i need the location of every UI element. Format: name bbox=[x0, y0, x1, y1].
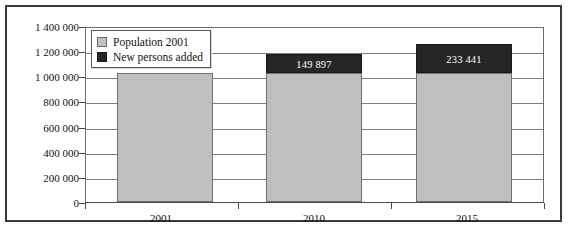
y-axis-tick-label: 800 000 bbox=[43, 97, 79, 108]
bar-2010[interactable]: 149 897 bbox=[266, 26, 362, 202]
legend-item-new-persons[interactable]: New persons added bbox=[97, 49, 203, 64]
x-axis-tick-mark bbox=[544, 203, 545, 209]
y-axis-tick-label: 400 000 bbox=[43, 147, 79, 158]
x-axis-label-2001: 2001 bbox=[150, 213, 172, 224]
y-axis-labels: 1 400 000 1 200 000 1 000 000 800 000 60… bbox=[7, 7, 79, 232]
x-axis-label-2015: 2015 bbox=[456, 213, 478, 224]
legend-label-population: Population 2001 bbox=[113, 36, 189, 48]
y-axis-tick-label: 1 000 000 bbox=[35, 72, 79, 83]
bar-label-2010: 149 897 bbox=[267, 58, 361, 69]
bar-label-2015: 233 441 bbox=[417, 53, 511, 64]
legend-swatch-population-icon bbox=[97, 37, 107, 47]
x-axis-tick-mark bbox=[85, 203, 86, 209]
legend-item-population[interactable]: Population 2001 bbox=[97, 34, 203, 49]
y-axis-tick-label: 200 000 bbox=[43, 172, 79, 183]
bar-segment-new-persons: 149 897 bbox=[266, 54, 362, 73]
bar-segment-new-persons: 233 441 bbox=[416, 44, 512, 73]
legend-swatch-new-persons-icon bbox=[97, 52, 107, 62]
y-axis-tick-label: 1 400 000 bbox=[35, 22, 79, 33]
chart-screenshot: 1 400 000 1 200 000 1 000 000 800 000 60… bbox=[0, 0, 572, 232]
bar-2015[interactable]: 233 441 bbox=[416, 26, 512, 202]
x-axis-label-2010: 2010 bbox=[303, 213, 325, 224]
bar-segment-population bbox=[117, 73, 213, 202]
bar-segment-population bbox=[266, 73, 362, 202]
chart-legend[interactable]: Population 2001 New persons added bbox=[91, 30, 211, 68]
chart-frame: 1 400 000 1 200 000 1 000 000 800 000 60… bbox=[5, 5, 562, 222]
bar-segment-population bbox=[416, 73, 512, 202]
x-axis-tick-mark bbox=[238, 203, 239, 209]
legend-label-new-persons: New persons added bbox=[113, 51, 203, 63]
x-axis-tick-mark bbox=[391, 203, 392, 209]
y-axis-tick-label: 600 000 bbox=[43, 122, 79, 133]
y-axis-tick-label: 1 200 000 bbox=[35, 47, 79, 58]
